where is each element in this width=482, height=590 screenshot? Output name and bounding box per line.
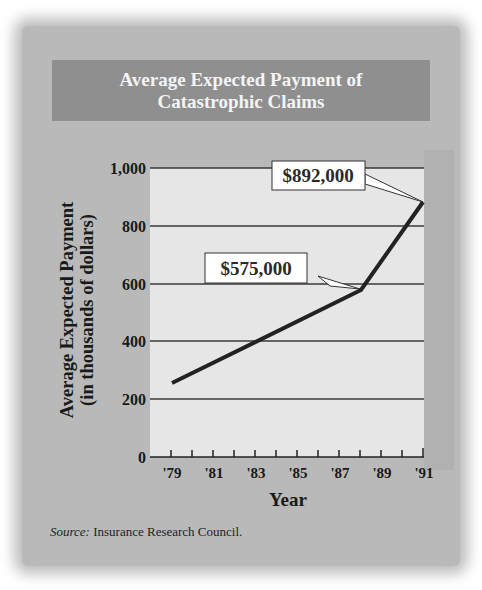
x-tick-79: '79 — [162, 465, 181, 481]
x-tick-85: '85 — [288, 465, 307, 481]
y-tick-400: 400 — [122, 333, 146, 350]
x-tick-labels: '79 '81 '83 '85 '87 '89 '91 — [162, 465, 433, 481]
callout-892-label: $892,000 — [282, 165, 353, 186]
source-text: Insurance Research Council. — [90, 524, 242, 539]
x-axis-label: Year — [269, 489, 308, 510]
y-tick-200: 200 — [122, 391, 146, 408]
x-tick-89: '89 — [372, 465, 391, 481]
y-tick-0: 0 — [138, 449, 146, 466]
y-tick-labels: 1,000 800 600 400 200 0 — [110, 160, 146, 466]
plot-shadow — [424, 150, 454, 470]
source-label: Source: — [50, 524, 90, 539]
x-tick-81: '81 — [204, 465, 223, 481]
x-tick-87: '87 — [330, 465, 350, 481]
source-note: Source: Insurance Research Council. — [50, 524, 242, 540]
y-tick-600: 600 — [122, 276, 146, 293]
y-tick-800: 800 — [122, 218, 146, 235]
x-tick-83: '83 — [246, 465, 265, 481]
callout-575-label: $575,000 — [220, 258, 291, 279]
line-chart: 1,000 800 600 400 200 0 '79 '81 '83 '85 … — [0, 0, 482, 590]
plot-area — [150, 168, 424, 457]
x-tick-91: '91 — [414, 465, 433, 481]
y-tick-1000: 1,000 — [110, 160, 146, 177]
